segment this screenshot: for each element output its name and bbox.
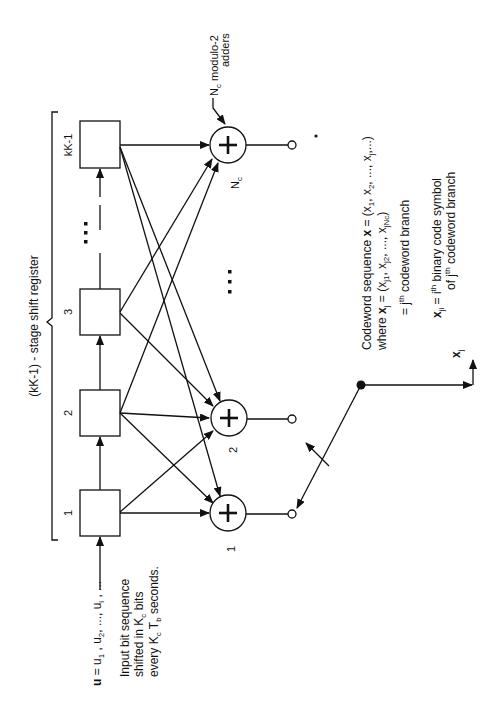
adder-Nc	[210, 127, 246, 163]
stray-dot	[314, 134, 317, 137]
output-terminal-Nc	[288, 141, 296, 149]
output-label: xj	[449, 349, 465, 358]
adder-1-label: 1	[225, 546, 237, 552]
stage-kK-1-label: kK-1	[62, 134, 74, 157]
input-desc-line1: Input bit sequence	[118, 579, 132, 677]
adder-2-label: 2	[227, 447, 239, 453]
stage-1-label: 1	[62, 510, 74, 516]
codeword-sequence-text: Codeword sequence x = (x1, x2, ..., xj,.…	[360, 136, 376, 350]
adders-annotation-leader	[213, 98, 225, 124]
codeword-where-text: where xj = (xj1, xj2, ..., xjNc)	[375, 212, 391, 351]
input-sequence-label: u = u1 , u2, ..., ui , ...	[90, 581, 106, 686]
adder-1	[210, 495, 246, 531]
output-terminal-2	[288, 415, 296, 423]
stage-2-label: 2	[62, 410, 74, 416]
stage-3	[80, 289, 120, 335]
adder-Nc-label: Nc	[229, 177, 244, 189]
register-ellipsis-icon	[84, 222, 88, 244]
stage-3-label: 3	[62, 309, 74, 315]
code-symbol-text-line2: of jth codeword branch	[443, 172, 458, 290]
codeword-branch-text: = jth codeword branch	[397, 200, 412, 315]
register-label: (kK-1) - stage shift register	[27, 255, 41, 396]
stage-2	[80, 390, 120, 436]
adder-2	[211, 400, 247, 436]
input-desc-line3: every Kc Tb seconds.	[147, 566, 163, 677]
adder-outputs	[246, 141, 296, 518]
stage-kK-1	[80, 121, 120, 168]
adders-annotation-sub: adders	[219, 33, 231, 67]
adders-ellipsis-icon	[228, 270, 232, 294]
input-desc-line2: shifted in Kc bits	[132, 592, 148, 677]
register-bracket	[47, 112, 58, 540]
stage-1	[80, 490, 120, 536]
commutator-switch	[297, 381, 366, 509]
tap-connections	[120, 145, 220, 513]
output-line	[361, 360, 473, 385]
encoder-diagram: (kK-1) - stage shift register kK-1 3 2 1	[0, 0, 493, 724]
output-terminal-1	[288, 510, 296, 518]
